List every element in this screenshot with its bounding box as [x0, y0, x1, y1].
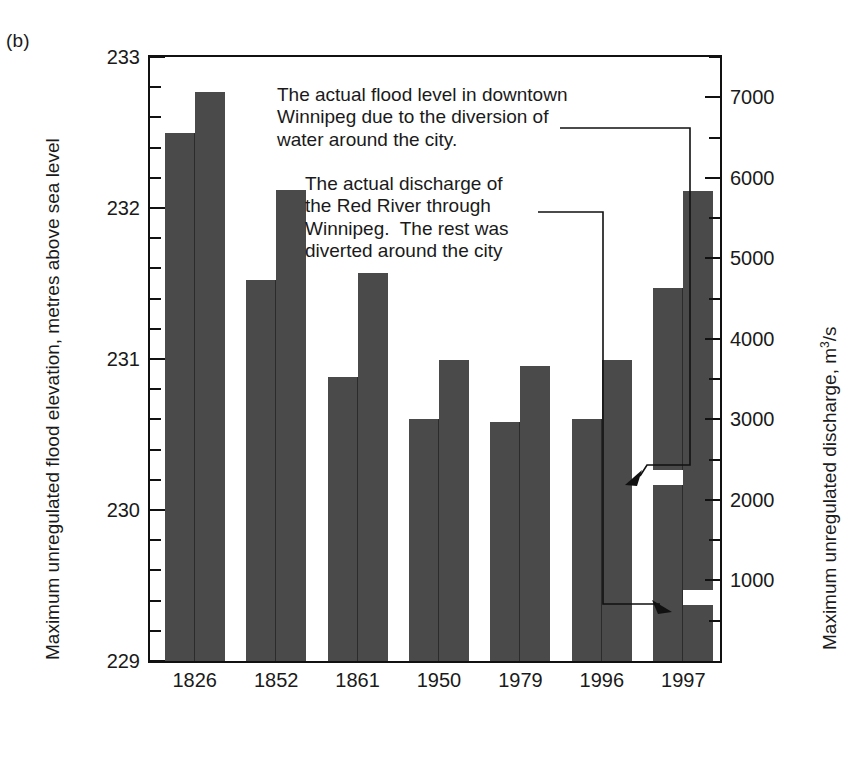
- y-right-tick-3500: [709, 378, 720, 380]
- y-left-tick-231.6: [150, 267, 161, 269]
- y-axis-right-title-pre: Maximum unregulated discharge, m: [819, 348, 840, 650]
- y-left-tick-231.4: [150, 298, 161, 300]
- y-left-tick-233: [150, 56, 165, 58]
- x-axis-label-1861: 1861: [335, 669, 380, 692]
- y-right-tick-label-5000: 5000: [730, 247, 775, 270]
- y-right-tick-label-6000: 6000: [730, 166, 775, 189]
- y-left-tick-229.6: [150, 569, 161, 571]
- y-left-tick-232.8: [150, 86, 161, 88]
- y-left-tick-label-230: 230: [107, 499, 140, 522]
- x-axis-label-1826: 1826: [172, 669, 217, 692]
- y-left-tick-230.2: [150, 479, 161, 481]
- y-right-tick-label-2000: 2000: [730, 488, 775, 511]
- y-left-tick-label-233: 233: [107, 46, 140, 69]
- y-right-tick-5000: [705, 257, 720, 259]
- actual-value-notch-elevation-1997: [653, 470, 683, 485]
- y-left-tick-label-232: 232: [107, 197, 140, 220]
- y-left-tick-232.2: [150, 177, 161, 179]
- figure-panel-b: (b) Maximum unregulated flood elevation,…: [0, 0, 848, 762]
- x-axis-label-1950: 1950: [417, 669, 462, 692]
- bar-elevation-1826: [165, 133, 195, 662]
- y-left-tick-231.8: [150, 237, 161, 239]
- y-left-tick-232.6: [150, 116, 161, 118]
- y-left-tick-229.8: [150, 539, 161, 541]
- y-right-tick-label-1000: 1000: [730, 569, 775, 592]
- y-right-tick-7500: [709, 56, 720, 58]
- bar-elevation-1861: [328, 377, 358, 661]
- y-left-tick-230.8: [150, 388, 161, 390]
- y-right-tick-1000: [705, 579, 720, 581]
- y-left-tick-231.2: [150, 328, 161, 330]
- y-right-tick-5500: [709, 217, 720, 219]
- annotation-flood-level: The actual flood level in downtown Winni…: [277, 84, 567, 151]
- y-right-tick-label-3000: 3000: [730, 408, 775, 431]
- y-left-tick-232.4: [150, 147, 161, 149]
- bar-elevation-1996: [572, 419, 602, 661]
- bar-discharge-1979: [520, 366, 550, 661]
- x-axis-label-1852: 1852: [254, 669, 299, 692]
- y-right-tick-7000: [705, 96, 720, 98]
- annotation-discharge: The actual discharge of the Red River th…: [305, 173, 508, 263]
- bar-discharge-1861: [358, 273, 388, 661]
- y-right-tick-label-4000: 4000: [730, 327, 775, 350]
- panel-label: (b): [6, 30, 30, 52]
- bar-elevation-1950: [409, 419, 439, 661]
- y-axis-right-title-exponent: 3: [818, 341, 832, 348]
- bar-discharge-1950: [439, 360, 469, 661]
- x-axis-label-1997: 1997: [661, 669, 706, 692]
- y-left-tick-229.4: [150, 600, 161, 602]
- y-right-tick-4000: [705, 338, 720, 340]
- y-right-tick-1500: [709, 539, 720, 541]
- y-left-tick-230: [150, 509, 165, 511]
- y-left-tick-231: [150, 358, 165, 360]
- bar-discharge-1852: [276, 190, 306, 661]
- y-left-tick-230.6: [150, 418, 161, 420]
- y-left-tick-229: [150, 660, 165, 662]
- bar-discharge-1826: [195, 92, 225, 661]
- x-axis-label-1996: 1996: [580, 669, 625, 692]
- y-right-tick-4500: [709, 298, 720, 300]
- y-right-tick-2500: [709, 459, 720, 461]
- bar-elevation-1852: [246, 280, 276, 661]
- y-left-tick-229.2: [150, 630, 161, 632]
- y-right-tick-2000: [705, 499, 720, 501]
- bar-discharge-1996: [602, 360, 632, 661]
- y-right-tick-label-7000: 7000: [730, 86, 775, 109]
- y-axis-right-title: Maximum unregulated discharge, m3/s: [818, 327, 841, 651]
- y-left-tick-230.4: [150, 449, 161, 451]
- actual-value-notch-discharge-1997: [683, 590, 713, 605]
- y-left-tick-label-229: 229: [107, 650, 140, 673]
- y-axis-right-title-post: /s: [819, 327, 840, 342]
- y-right-tick-3000: [705, 418, 720, 420]
- y-left-tick-label-231: 231: [107, 348, 140, 371]
- y-right-tick-6000: [705, 177, 720, 179]
- x-axis-label-1979: 1979: [498, 669, 543, 692]
- y-left-tick-232: [150, 207, 165, 209]
- y-right-tick-6500: [709, 137, 720, 139]
- bar-elevation-1979: [490, 422, 520, 661]
- y-axis-left-title: Maximum unregulated flood elevation, met…: [42, 138, 64, 660]
- y-right-tick-500: [709, 620, 720, 622]
